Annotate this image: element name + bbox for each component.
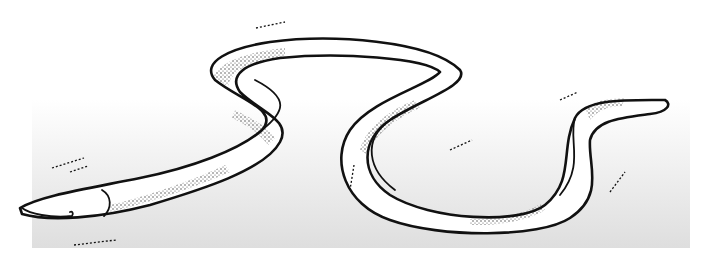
- eel-illustration: [0, 0, 710, 261]
